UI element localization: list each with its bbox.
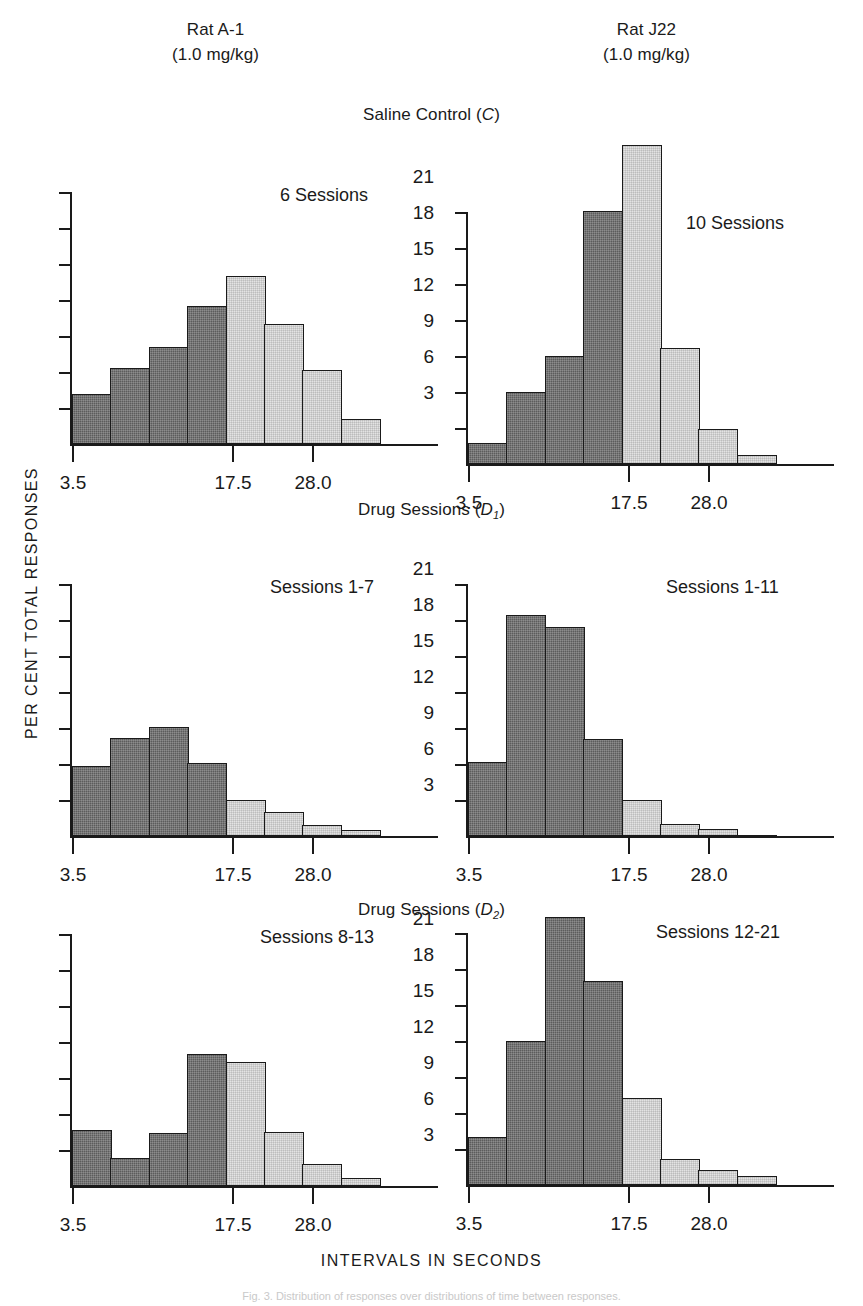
y-axis-tick [59,1078,71,1080]
x-axis-line [70,836,438,838]
y-axis-tick [455,969,467,971]
panel-session-note: 6 Sessions [280,185,368,206]
y-axis-tick-label: 21 [400,909,434,928]
y-axis-tick [455,1113,467,1115]
y-axis-tick [455,656,467,658]
section-title-saline-symbol: C [482,105,494,124]
bar-series [72,727,379,836]
y-axis-tick [59,1006,71,1008]
figure-caption: Fig. 3. Distribution of responses over d… [0,1290,863,1302]
panel-session-note: Sessions 1-11 [666,577,779,598]
histogram-bar [468,1137,508,1185]
x-axis-tick-label: 28.0 [691,1213,728,1235]
y-axis-tick [59,192,71,194]
x-axis-line [466,1185,834,1187]
y-axis-tick [59,228,71,230]
plot-area: 369121518213.517.528.0Sessions 8-13 [70,930,450,1188]
subject-dose-left: (1.0 mg/kg) [0,43,431,68]
panel-session-note: 10 Sessions [686,213,784,234]
panel-session-note: Sessions 8-13 [260,927,374,948]
x-axis-tick [72,445,74,462]
x-axis-tick [232,445,234,462]
histogram-bar [226,1062,266,1186]
y-axis-tick-label: 3 [400,775,434,794]
y-axis-tick [59,764,71,766]
x-axis-tick [72,1187,74,1204]
y-axis-tick-label: 18 [400,203,434,222]
histogram-bar [583,211,623,464]
y-axis-tick [59,300,71,302]
histogram-bar [506,615,546,836]
x-axis-tick [628,1186,630,1203]
x-axis-tick-label: 3.5 [60,1214,86,1236]
subject-dose-right: (1.0 mg/kg) [431,43,862,68]
histogram-bar [698,429,738,464]
x-axis-tick-label: 17.5 [215,472,252,494]
y-axis-tick [455,933,467,935]
y-axis-tick [59,620,71,622]
x-axis-tick [312,1187,314,1204]
y-axis-tick [59,1114,71,1116]
x-axis-tick [468,837,470,854]
histogram-bar [341,1178,381,1186]
x-axis-tick-label: 3.5 [60,472,86,494]
y-axis-tick-label: 12 [400,667,434,686]
plot-area: 3.517.528.0Sessions 12-21 [466,913,846,1187]
y-axis-tick [59,336,71,338]
x-axis-tick-label: 28.0 [295,472,332,494]
histogram-bar [737,1176,777,1184]
histogram-bar [583,981,623,1185]
y-axis-tick-label: 18 [400,595,434,614]
histogram-bar [341,419,381,444]
x-axis-tick [232,837,234,854]
histogram-bar [622,145,662,464]
x-axis-tick-label: 28.0 [295,864,332,886]
histogram-bar [468,762,508,836]
histogram-bar [506,1041,546,1185]
histogram-bar [302,370,342,444]
histogram-bar [110,1158,150,1186]
histogram-bar [264,1132,304,1186]
y-axis-tick-label: 12 [400,1017,434,1036]
y-axis-tick-label: 15 [400,239,434,258]
y-axis-tick [455,800,467,802]
x-axis-tick [232,1187,234,1204]
y-axis-tick [455,320,467,322]
histogram-bar [187,306,227,444]
y-axis-tick [59,264,71,266]
y-axis-tick-label: 15 [400,981,434,1000]
y-axis-tick [59,1042,71,1044]
y-axis-tick [59,408,71,410]
y-axis-tick [455,1041,467,1043]
x-axis-tick-label: 28.0 [691,864,728,886]
histogram-bar [72,394,112,444]
section-title-drug-d1: Drug Sessions (D1) [0,500,863,521]
y-axis-tick [455,356,467,358]
y-axis-tick [455,764,467,766]
histogram-bar [506,392,546,464]
y-axis-tick-label: 9 [400,703,434,722]
panel-session-note: Sessions 1-7 [270,577,374,598]
x-axis-tick [72,837,74,854]
y-axis-tick [59,372,71,374]
y-axis-tick [455,212,467,214]
histogram-bar [226,276,266,444]
histogram-bar [264,812,304,836]
y-axis-tick [455,620,467,622]
x-axis-tick [628,837,630,854]
y-axis-tick [59,970,71,972]
histogram-bar [468,443,508,465]
x-axis-tick [708,837,710,854]
histogram-bar [226,800,266,836]
y-axis-tick-label: 21 [400,167,434,186]
subject-column-right: Rat J22 (1.0 mg/kg) [431,18,862,67]
y-axis-tick [59,934,71,936]
x-axis-tick [708,465,710,482]
x-axis-line [70,1186,438,1188]
histogram-bar [302,1164,342,1186]
x-axis-line [466,836,834,838]
y-axis-tick [455,728,467,730]
histogram-bar [660,824,700,836]
x-axis-tick-label: 17.5 [215,864,252,886]
histogram-bar [149,1133,189,1186]
